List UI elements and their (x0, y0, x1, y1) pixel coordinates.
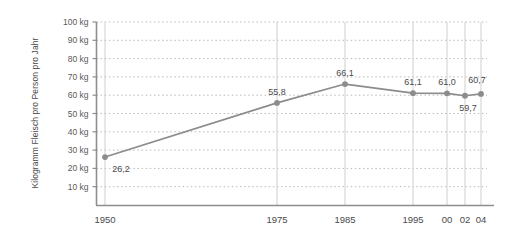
y-tick-label: 50 kg (68, 109, 89, 119)
data-value-label: 61,0 (438, 77, 456, 87)
x-tick-label: 1950 (94, 214, 115, 225)
data-point-marker (478, 91, 484, 97)
x-tick-label: 02 (460, 214, 471, 225)
data-value-label: 55,8 (268, 87, 286, 97)
y-tick-label: 60 kg (68, 90, 89, 100)
y-tick-label: 80 kg (68, 54, 89, 64)
x-tick-label: 1975 (266, 214, 287, 225)
data-point-marker (444, 90, 450, 96)
y-tick-label: 90 kg (68, 35, 89, 45)
x-tick-label: 1985 (334, 214, 355, 225)
y-tick-label: 30 kg (68, 145, 89, 155)
meat-consumption-line-chart: 10 kg20 kg30 kg40 kg50 kg60 kg70 kg80 kg… (0, 0, 517, 246)
y-tick-label: 20 kg (68, 163, 89, 173)
data-point-marker (462, 93, 468, 99)
y-tick-label: 40 kg (68, 127, 89, 137)
data-point-marker (102, 154, 108, 160)
data-point-marker (274, 100, 280, 106)
data-value-label: 26,2 (112, 164, 130, 174)
chart-canvas: 10 kg20 kg30 kg40 kg50 kg60 kg70 kg80 kg… (0, 0, 517, 246)
x-tick-label: 1995 (402, 214, 423, 225)
y-tick-label: 70 kg (68, 72, 89, 82)
x-tick-label: 04 (476, 214, 487, 225)
y-axis-title: Kilogramm Fleisch pro Person pro Jahr (30, 37, 40, 188)
data-value-label: 61,1 (404, 77, 422, 87)
data-value-label: 66,1 (336, 68, 354, 78)
x-tick-label: 00 (442, 214, 453, 225)
data-point-marker (410, 90, 416, 96)
y-tick-label: 10 kg (68, 182, 89, 192)
data-value-label: 59,7 (459, 103, 477, 113)
data-value-label: 60,7 (468, 75, 486, 85)
data-point-marker (342, 81, 348, 87)
y-tick-label: 100 kg (63, 17, 89, 27)
